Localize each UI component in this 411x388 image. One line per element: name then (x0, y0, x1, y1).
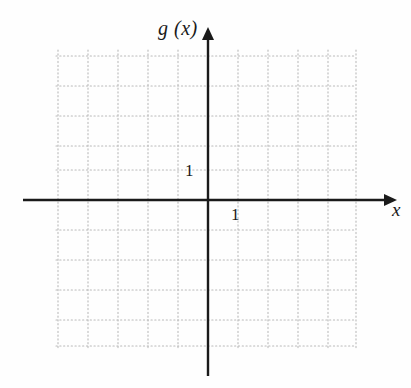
y-axis-arrow-icon (202, 27, 214, 40)
x-axis-tick-label-1: 1 (231, 206, 240, 223)
y-axis-tick-label-1: 1 (185, 162, 194, 179)
graph-figure: g (x) x 1 1 (0, 0, 411, 388)
coordinate-plane (0, 0, 411, 388)
x-axis-label: x (392, 200, 400, 219)
x-axis (23, 194, 397, 206)
y-axis (202, 27, 214, 376)
y-axis-label: g (x) (158, 18, 198, 38)
